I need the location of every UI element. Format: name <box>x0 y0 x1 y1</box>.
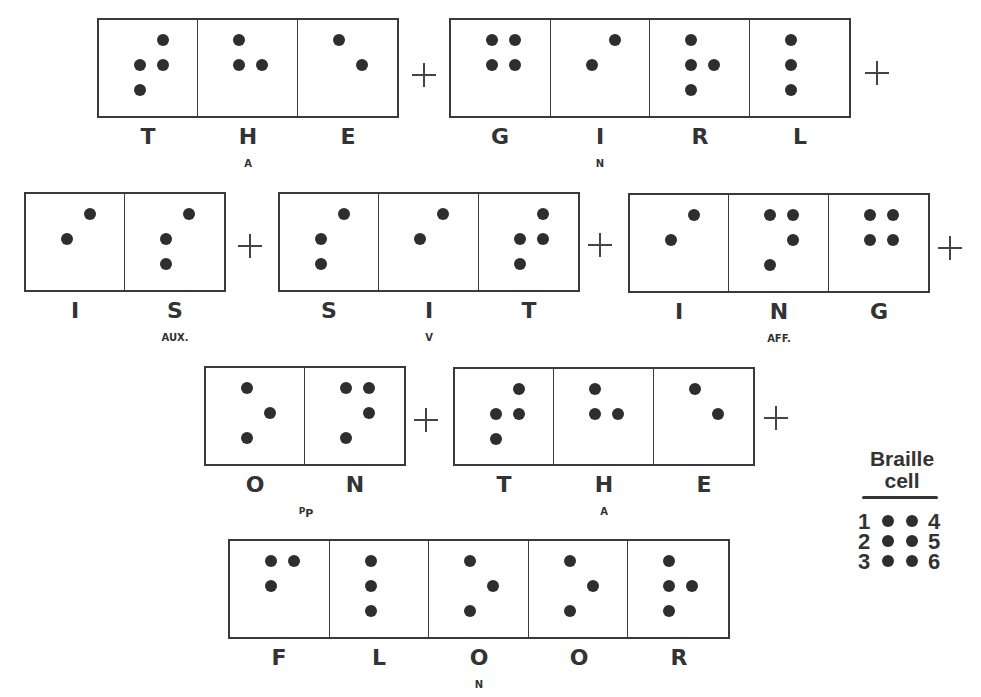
braille-dot-2-icon <box>685 59 697 71</box>
letter-label: S <box>125 298 225 323</box>
plus-icon <box>764 406 788 430</box>
braille-cell-l <box>750 20 850 116</box>
braille-dot-1-icon <box>233 34 245 46</box>
braille-dot-4-icon <box>609 34 621 46</box>
legend-row-1: 1 4 <box>852 511 952 531</box>
letter-label: H <box>198 124 298 149</box>
braille-word-the-1 <box>97 18 399 118</box>
braille-dot-2-icon <box>315 233 327 245</box>
braille-dot-4-icon <box>288 555 300 567</box>
braille-dot-2-icon <box>665 234 677 246</box>
plus-icon <box>414 408 438 432</box>
braille-dot-4-icon <box>537 208 549 220</box>
grammar-annotation: AUX. <box>125 332 225 343</box>
braille-dot-1-icon <box>333 34 345 46</box>
plus-icon <box>238 234 262 258</box>
braille-cell-s <box>125 194 224 290</box>
braille-dot-5-icon <box>887 234 899 246</box>
legend-dot-icon <box>906 515 918 527</box>
braille-dot-5-icon <box>612 408 624 420</box>
braille-dot-5-icon <box>686 580 698 592</box>
braille-dot-3-icon <box>241 432 253 444</box>
letter-label: T <box>98 124 198 149</box>
braille-dot-1-icon <box>564 555 576 567</box>
braille-dot-4-icon <box>887 209 899 221</box>
braille-dot-2-icon <box>514 233 526 245</box>
braille-dot-5-icon <box>356 59 368 71</box>
braille-dot-4-icon <box>437 208 449 220</box>
braille-dot-2-icon <box>265 580 277 592</box>
braille-dot-4-icon <box>338 208 350 220</box>
braille-dot-4-icon <box>183 208 195 220</box>
braille-dot-4-icon <box>157 34 169 46</box>
braille-cell-i <box>379 194 478 290</box>
braille-dot-4-icon <box>513 383 525 395</box>
braille-cell-h <box>554 369 653 464</box>
braille-cell-n <box>729 195 828 291</box>
braille-cell-t <box>479 194 578 290</box>
braille-dot-1-icon <box>663 555 675 567</box>
braille-dot-3-icon <box>160 258 172 270</box>
braille-dot-1-icon <box>486 34 498 46</box>
braille-dot-4-icon <box>787 209 799 221</box>
braille-dot-2-icon <box>785 59 797 71</box>
braille-dot-2-icon <box>589 408 601 420</box>
braille-cell-o <box>429 541 529 637</box>
braille-dot-2-icon <box>134 59 146 71</box>
braille-cell-h <box>198 20 297 116</box>
letter-label: R <box>629 645 729 670</box>
braille-word-the-2 <box>453 367 755 466</box>
braille-dot-2-icon <box>663 580 675 592</box>
letter-label: I <box>379 298 479 323</box>
braille-dot-5-icon <box>264 407 276 419</box>
braille-dot-1-icon <box>689 383 701 395</box>
braille-dot-5-icon <box>363 407 375 419</box>
braille-dot-2-icon <box>365 580 377 592</box>
legend-dot-icon <box>882 535 894 547</box>
braille-dot-1-icon <box>464 555 476 567</box>
dot-number-3: 3 <box>858 549 870 575</box>
braille-dot-5-icon <box>712 408 724 420</box>
letter-label: O <box>429 645 529 670</box>
braille-dot-3-icon <box>764 259 776 271</box>
legend-title-line2: cell <box>852 470 952 492</box>
letter-label: E <box>654 472 754 497</box>
braille-dot-3-icon <box>340 432 352 444</box>
letter-label: I <box>550 124 650 149</box>
braille-dot-1-icon <box>764 209 776 221</box>
braille-dot-3-icon <box>315 258 327 270</box>
braille-dot-4-icon <box>688 209 700 221</box>
grammar-annotation: AFF. <box>729 333 829 344</box>
grammar-annotation: A <box>554 506 654 517</box>
legend-dot-icon <box>882 515 894 527</box>
letter-label: H <box>554 472 654 497</box>
braille-cell-s <box>280 194 379 290</box>
braille-cell-i <box>26 194 125 290</box>
letter-label: T <box>479 298 579 323</box>
dot-number-6: 6 <box>928 549 940 575</box>
letter-label: F <box>229 645 329 670</box>
letter-label: O <box>205 472 305 497</box>
braille-dot-2-icon <box>586 59 598 71</box>
legend-row-3: 3 6 <box>852 551 952 571</box>
grammar-annotation: N <box>550 158 650 169</box>
braille-cell-t <box>99 20 198 116</box>
braille-cell-e <box>298 20 397 116</box>
braille-cell-r <box>650 20 750 116</box>
braille-dot-2-icon <box>160 233 172 245</box>
plus-icon <box>588 233 612 257</box>
braille-word-floor <box>228 539 730 639</box>
braille-dot-3-icon <box>490 433 502 445</box>
braille-cell-i <box>551 20 651 116</box>
braille-cell-l <box>330 541 430 637</box>
braille-dot-1-icon <box>685 34 697 46</box>
legend-row-2: 2 5 <box>852 531 952 551</box>
letter-label: N <box>305 472 405 497</box>
letter-label: N <box>729 299 829 324</box>
braille-dot-5-icon <box>787 234 799 246</box>
braille-dot-4-icon <box>363 382 375 394</box>
braille-dot-3-icon <box>685 84 697 96</box>
braille-dot-1-icon <box>265 555 277 567</box>
letter-label: S <box>279 298 379 323</box>
plus-icon <box>865 61 889 85</box>
